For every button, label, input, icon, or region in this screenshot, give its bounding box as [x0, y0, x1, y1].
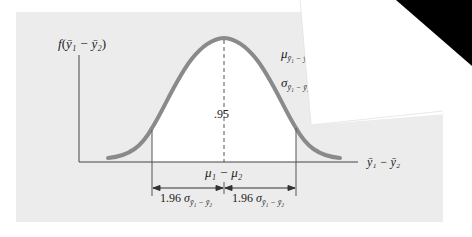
- page-overlay: [0, 0, 472, 237]
